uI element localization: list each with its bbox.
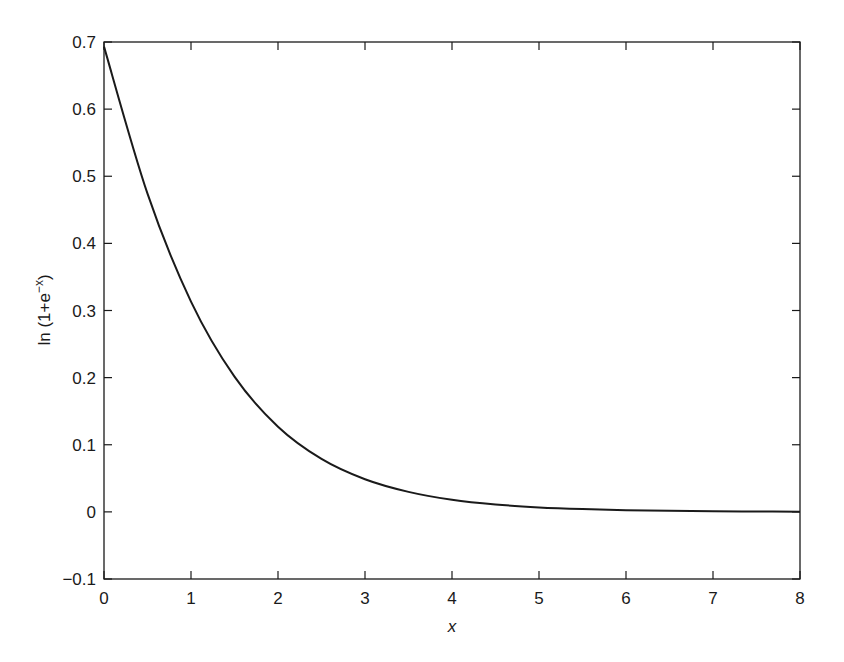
y-axis-label-base: ln (1+e (35, 293, 54, 345)
y-tick-label: 0 (87, 503, 96, 522)
plot-frame (104, 42, 800, 579)
x-tick-label: 7 (708, 589, 717, 608)
x-tick-label: 5 (534, 589, 543, 608)
y-tick-label: 0.4 (72, 234, 96, 253)
y-tick-label: 0.2 (72, 369, 96, 388)
x-tick-label: 0 (99, 589, 108, 608)
y-axis-ticks: −0.100.10.20.30.40.50.60.7 (62, 33, 800, 589)
y-tick-label: 0.6 (72, 100, 96, 119)
y-tick-label: 0.1 (72, 436, 96, 455)
x-tick-label: 2 (273, 589, 282, 608)
x-tick-label: 8 (795, 589, 804, 608)
y-tick-label: 0.7 (72, 33, 96, 52)
x-axis-label: x (447, 617, 457, 636)
y-axis-label-close: ) (35, 274, 54, 280)
y-tick-label: 0.3 (72, 302, 96, 321)
y-tick-label: −0.1 (62, 570, 96, 589)
x-axis-ticks: 012345678 (99, 42, 804, 608)
x-tick-label: 1 (186, 589, 195, 608)
x-tick-label: 6 (621, 589, 630, 608)
y-tick-label: 0.5 (72, 167, 96, 186)
x-tick-label: 4 (447, 589, 456, 608)
data-line (104, 47, 800, 512)
line-chart: −0.100.10.20.30.40.50.60.7 012345678 x l… (0, 0, 844, 662)
y-axis-label-exponent: −x (32, 280, 46, 293)
x-tick-label: 3 (360, 589, 369, 608)
y-axis-label: ln (1+e−x) (32, 274, 54, 345)
